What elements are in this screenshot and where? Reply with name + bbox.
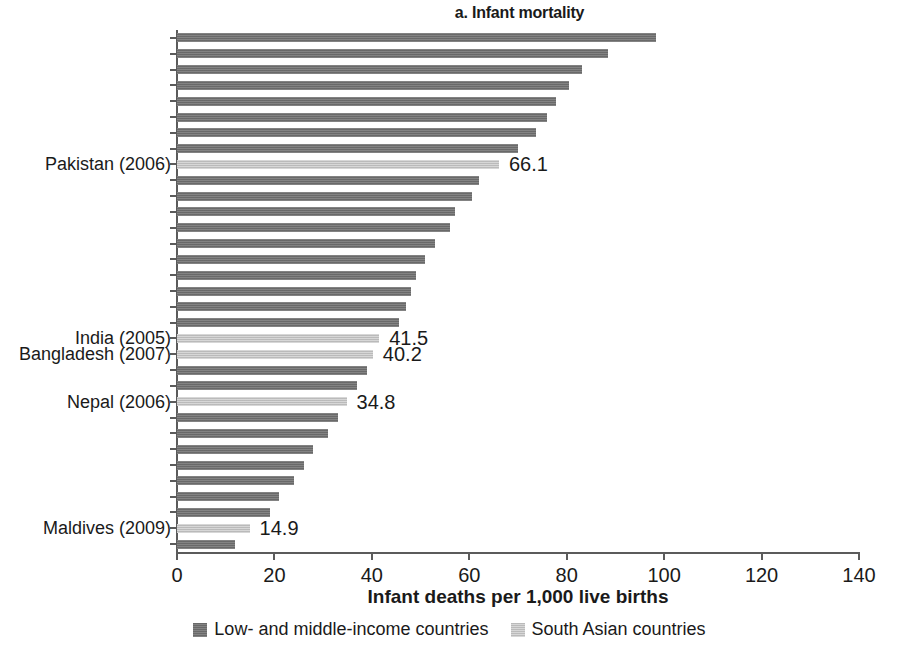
legend-swatch-icon (511, 623, 525, 637)
y-axis-tick (170, 543, 177, 545)
x-axis-tick (663, 552, 665, 560)
y-axis-tick (170, 527, 177, 529)
bar (177, 445, 313, 454)
bar (177, 318, 399, 327)
y-axis-tick (170, 448, 177, 450)
bar (177, 113, 547, 122)
y-axis-tick (170, 132, 177, 134)
bar (177, 461, 304, 470)
bar (177, 223, 450, 232)
bar (177, 508, 270, 517)
x-axis-title: Infant deaths per 1,000 live births (177, 586, 859, 608)
chart-legend: Low- and middle-income countriesSouth As… (0, 619, 899, 640)
y-axis-tick (170, 385, 177, 387)
x-axis-tick-label: 60 (458, 564, 480, 587)
bar-value-label: 40.2 (383, 343, 422, 366)
x-axis-line (176, 552, 860, 554)
category-label: Pakistan (2006) (0, 154, 171, 175)
x-axis-tick (566, 552, 568, 560)
legend-label: Low- and middle-income countries (214, 619, 488, 640)
bar-value-label: 14.9 (260, 517, 299, 540)
bar (177, 239, 435, 248)
y-axis-tick (170, 243, 177, 245)
legend-item: Low- and middle-income countries (193, 619, 488, 640)
y-axis-tick (170, 84, 177, 86)
x-axis-tick-label: 40 (361, 564, 383, 587)
y-axis-tick (170, 337, 177, 339)
y-axis-tick (170, 306, 177, 308)
x-axis-tick (761, 552, 763, 560)
y-axis-tick (170, 353, 177, 355)
bar (177, 128, 536, 137)
bar (177, 524, 250, 533)
bar (177, 287, 411, 296)
x-axis-tick-label: 80 (556, 564, 578, 587)
bar (177, 381, 357, 390)
legend-item: South Asian countries (511, 619, 706, 640)
y-axis-tick (170, 53, 177, 55)
y-axis-tick (170, 116, 177, 118)
legend-label: South Asian countries (532, 619, 706, 640)
y-axis-tick (170, 69, 177, 71)
legend-swatch-icon (193, 623, 207, 637)
y-axis-tick (170, 322, 177, 324)
bar (177, 397, 347, 406)
y-axis-tick (170, 401, 177, 403)
bar (177, 255, 425, 264)
y-axis-tick (170, 432, 177, 434)
bar (177, 49, 608, 58)
x-axis-tick (273, 552, 275, 560)
x-axis-tick (176, 552, 178, 560)
x-axis-tick (468, 552, 470, 560)
bar (177, 492, 279, 501)
y-axis-tick (170, 369, 177, 371)
category-label: Nepal (2006) (0, 391, 171, 412)
category-label: Maldives (2009) (0, 518, 171, 539)
y-axis-tick (170, 496, 177, 498)
bar (177, 160, 499, 169)
bar (177, 334, 379, 343)
category-label: Bangladesh (2007) (0, 344, 171, 365)
x-axis-tick-label: 100 (647, 564, 680, 587)
plot-area: 02040608010012014066.141.540.234.814.9 (177, 30, 859, 552)
bar-value-label: 66.1 (509, 153, 548, 176)
y-axis-tick (170, 480, 177, 482)
y-axis-tick (170, 511, 177, 513)
bar (177, 207, 455, 216)
bar (177, 33, 656, 42)
bar-value-label: 34.8 (357, 390, 396, 413)
bar (177, 192, 472, 201)
y-axis-tick (170, 290, 177, 292)
bar (177, 97, 556, 106)
bar (177, 271, 416, 280)
x-axis-tick-label: 0 (171, 564, 182, 587)
x-axis-tick (858, 552, 860, 560)
bar (177, 413, 338, 422)
y-axis-tick (170, 464, 177, 466)
y-axis-tick (170, 163, 177, 165)
y-axis-tick (170, 274, 177, 276)
bar (177, 144, 518, 153)
y-axis-tick (170, 179, 177, 181)
y-axis-tick (170, 37, 177, 39)
y-axis-tick (170, 258, 177, 260)
x-axis-tick-label: 140 (842, 564, 875, 587)
y-axis-tick (170, 148, 177, 150)
bar (177, 81, 569, 90)
bar (177, 176, 479, 185)
x-axis-tick-label: 120 (745, 564, 778, 587)
bar (177, 540, 235, 549)
bar (177, 65, 582, 74)
y-axis-tick (170, 227, 177, 229)
infant-mortality-chart: a. Infant mortality 02040608010012014066… (0, 0, 899, 648)
y-axis-tick (170, 100, 177, 102)
x-axis-tick (371, 552, 373, 560)
y-axis-tick (170, 211, 177, 213)
bar (177, 302, 406, 311)
chart-title: a. Infant mortality (0, 4, 899, 22)
bar (177, 476, 294, 485)
y-axis-tick (170, 195, 177, 197)
bar (177, 350, 373, 359)
x-axis-tick-label: 20 (263, 564, 285, 587)
bar (177, 366, 367, 375)
